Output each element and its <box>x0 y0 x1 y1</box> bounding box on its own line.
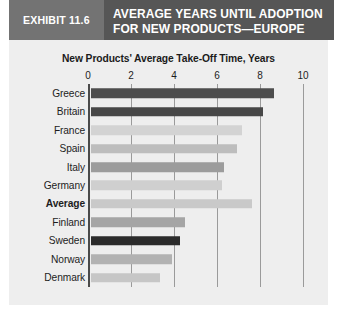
chart-area: New Products' Average Take-Off Time, Yea… <box>9 52 328 305</box>
bar-rows: GreeceBritainFranceSpainItalyGermanyAver… <box>9 84 328 287</box>
bar-greece <box>91 88 274 98</box>
bar-denmark <box>91 273 160 283</box>
bar-label-finland: Finland <box>9 217 88 228</box>
bar-label-norway: Norway <box>9 254 88 265</box>
bar-row: Average <box>9 195 328 213</box>
bar-track <box>88 250 328 268</box>
bar-row: Italy <box>9 158 328 176</box>
bar-track <box>88 213 328 231</box>
exhibit-title-line-1: AVERAGE YEARS UNTIL ADOPTION <box>113 7 323 22</box>
bar-label-france: France <box>9 125 88 136</box>
bar-sweden <box>91 236 180 246</box>
bar-label-italy: Italy <box>9 162 88 173</box>
x-tick-0: 0 <box>85 70 91 81</box>
exhibit-tag-label: EXHIBIT 11.6 <box>23 14 90 26</box>
bar-germany <box>91 181 222 191</box>
bar-label-average: Average <box>9 198 88 209</box>
exhibit-tag: EXHIBIT 11.6 <box>9 0 104 40</box>
bar-row: Finland <box>9 213 328 231</box>
bar-row: Greece <box>9 84 328 102</box>
exhibit-title: AVERAGE YEARS UNTIL ADOPTION FOR NEW PRO… <box>104 0 334 40</box>
bar-track <box>88 195 328 213</box>
bar-track <box>88 139 328 157</box>
bar-italy <box>91 162 224 172</box>
bar-row: Denmark <box>9 269 328 287</box>
bar-track <box>88 121 328 139</box>
exhibit-header: EXHIBIT 11.6 AVERAGE YEARS UNTIL ADOPTIO… <box>9 0 310 40</box>
bar-track <box>88 84 328 102</box>
bar-france <box>91 125 242 135</box>
x-tick-8: 8 <box>257 70 263 81</box>
bar-track <box>88 232 328 250</box>
bar-row: Sweden <box>9 232 328 250</box>
bar-label-sweden: Sweden <box>9 235 88 246</box>
bar-track <box>88 176 328 194</box>
bar-chart-plot: 0246810 GreeceBritainFranceSpainItalyGer… <box>9 70 328 298</box>
bar-label-denmark: Denmark <box>9 272 88 283</box>
bar-row: Norway <box>9 250 328 268</box>
chart-axis-title: New Products' Average Take-Off Time, Yea… <box>14 52 323 64</box>
bar-label-britain: Britain <box>9 106 88 117</box>
bar-label-greece: Greece <box>9 88 88 99</box>
bar-finland <box>91 218 185 228</box>
bar-britain <box>91 107 263 117</box>
bar-track <box>88 269 328 287</box>
exhibit-title-line-2: FOR NEW PRODUCTS—EUROPE <box>113 22 323 37</box>
bar-norway <box>91 255 172 265</box>
bar-label-spain: Spain <box>9 143 88 154</box>
bar-spain <box>91 144 237 154</box>
x-tick-10: 10 <box>297 70 308 81</box>
bar-track <box>88 158 328 176</box>
bar-average <box>91 199 252 209</box>
x-tick-6: 6 <box>214 70 220 81</box>
bar-track <box>88 102 328 120</box>
bar-row: France <box>9 121 328 139</box>
bar-row: Britain <box>9 102 328 120</box>
bar-row: Germany <box>9 176 328 194</box>
bar-row: Spain <box>9 139 328 157</box>
x-tick-2: 2 <box>128 70 134 81</box>
x-tick-4: 4 <box>171 70 177 81</box>
bar-label-germany: Germany <box>9 180 88 191</box>
